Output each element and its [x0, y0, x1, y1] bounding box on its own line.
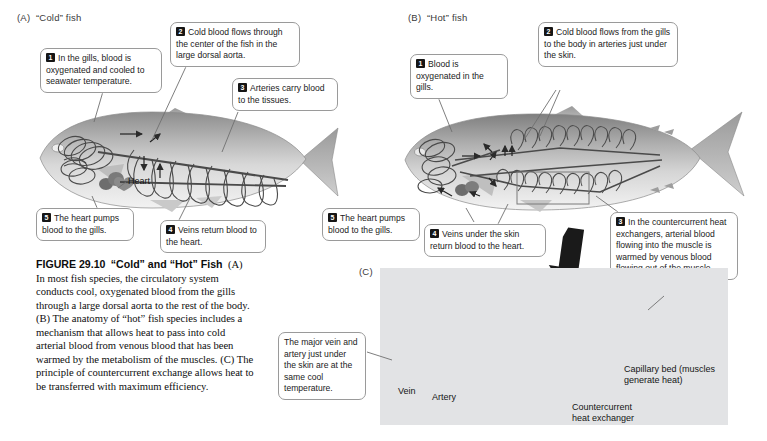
label-countercurrent-heat-exchanger: Countercurrent heat exchanger — [572, 402, 662, 424]
label-capillary-bed: Capillary bed (muscles generate heat) — [624, 364, 728, 386]
figure-canvas: (A) “Cold” fish 1In the gills, blood is … — [0, 0, 767, 441]
label-vein: Vein — [398, 386, 416, 397]
label-artery: Artery — [432, 392, 456, 403]
